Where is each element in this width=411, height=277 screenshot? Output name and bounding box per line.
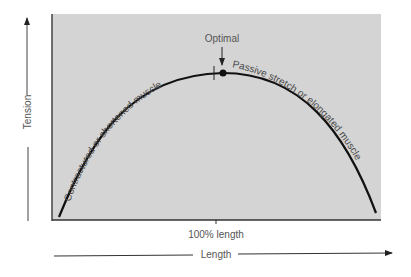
x-arrow-left-segment bbox=[54, 255, 193, 256]
length-tension-chart: Optimal Contractured or shortened muscle… bbox=[0, 0, 411, 277]
x-tick-label: 100% length bbox=[188, 229, 244, 240]
optimal-label: Optimal bbox=[205, 33, 239, 44]
x-axis-label: Length bbox=[201, 249, 232, 260]
x-arrow-right-segment bbox=[238, 253, 392, 254]
y-axis-label: Tension bbox=[22, 95, 33, 129]
optimal-point bbox=[220, 70, 227, 77]
